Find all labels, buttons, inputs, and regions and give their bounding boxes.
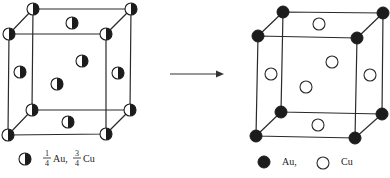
au-atom	[277, 6, 289, 18]
au-atom	[349, 132, 361, 144]
half-filled-atom	[2, 129, 14, 141]
half-filled-atom	[27, 3, 39, 15]
transformation-arrow-icon	[170, 71, 224, 78]
cu-fraction-numerator: 3	[75, 149, 79, 158]
half-filled-atom	[26, 104, 38, 116]
au-atom	[250, 130, 262, 142]
au-fraction-denominator: 4	[45, 159, 49, 168]
half-filled-atom	[124, 104, 136, 116]
au-atom	[377, 7, 389, 19]
half-filled-atom	[66, 17, 78, 29]
right-cube	[250, 6, 389, 144]
cu-atom	[265, 68, 277, 80]
cu3au-order-diagram: 1 4 Au, 3 4 Cu	[0, 0, 390, 178]
left-cube	[2, 3, 137, 141]
half-filled-atom	[62, 116, 74, 128]
cu-atom	[364, 69, 376, 81]
au-atom	[351, 32, 363, 44]
au-fraction-numerator: 1	[45, 149, 49, 158]
au-atom	[252, 30, 264, 42]
cu-atom	[312, 119, 324, 131]
left-legend: 1 4 Au, 3 4 Cu	[19, 149, 95, 168]
cu-atom	[326, 56, 338, 68]
cu-label: Cu	[83, 153, 95, 164]
half-filled-atom	[125, 3, 137, 15]
cu-atom	[313, 18, 325, 30]
half-filled-atom	[100, 128, 112, 140]
right-legend: Au, Cu	[258, 156, 353, 169]
half-filled-circle-icon	[19, 153, 31, 165]
half-filled-atom	[76, 55, 88, 67]
filled-circle-icon	[258, 156, 270, 168]
au-atom	[376, 108, 388, 120]
cu-legend-label: Cu	[341, 156, 353, 167]
open-circle-icon	[317, 157, 329, 169]
au-label: Au,	[53, 153, 68, 164]
half-filled-atom	[14, 66, 26, 78]
cu-fraction-denominator: 4	[75, 159, 79, 168]
au-atom	[275, 106, 287, 118]
half-filled-atom	[3, 28, 15, 40]
half-filled-atom	[100, 28, 112, 40]
half-filled-atom	[112, 67, 124, 79]
half-filled-atom	[51, 78, 63, 90]
cu-atom	[300, 81, 312, 93]
au-legend-label: Au,	[282, 156, 297, 167]
